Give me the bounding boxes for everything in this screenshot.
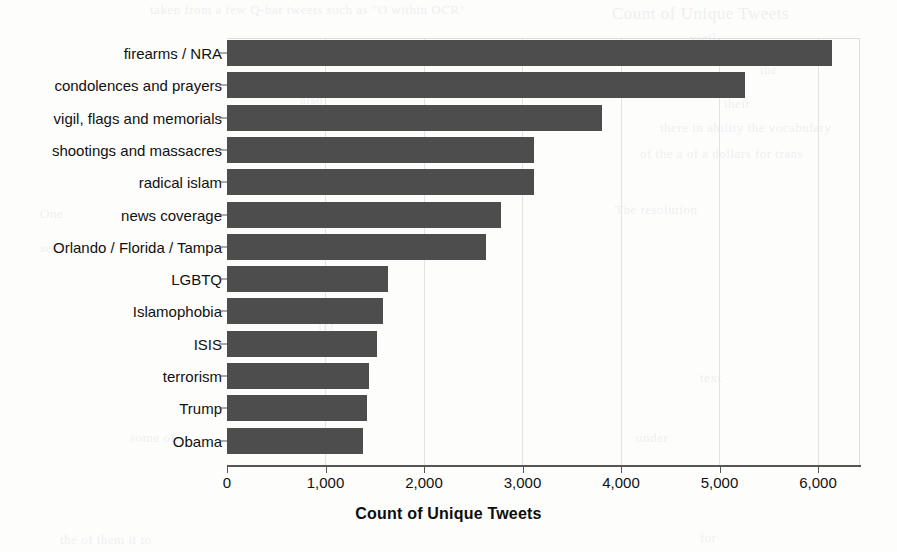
category-label: terrorism [163,368,222,385]
bar[interactable] [227,266,388,292]
scan-artifact-text: for [700,530,717,546]
category-label: vigil, flags and memorials [54,109,222,126]
bar-row[interactable]: news coverage [0,202,897,228]
bar-row[interactable]: Trump [0,395,897,421]
category-tick [219,408,227,409]
category-tick [219,246,227,247]
category-label: Obama [173,432,222,449]
bar-row[interactable]: Obama [0,428,897,454]
bar[interactable] [227,363,369,389]
category-tick [219,311,227,312]
x-tick-label: 0 [223,474,231,491]
bar[interactable] [227,40,832,66]
bar[interactable] [227,395,367,421]
category-tick [219,85,227,86]
category-tick [219,214,227,215]
bar[interactable] [227,298,383,324]
category-label: LGBTQ [171,271,222,288]
bar[interactable] [227,331,377,357]
bar[interactable] [227,202,501,228]
bar-row[interactable]: shootings and massacres [0,137,897,163]
x-tick-label: 2,000 [405,474,443,491]
bar[interactable] [227,428,363,454]
bar-row[interactable]: ISIS [0,331,897,357]
bar[interactable] [227,72,745,98]
category-tick [219,117,227,118]
x-tick-label: 1,000 [307,474,345,491]
category-tick [219,440,227,441]
category-label: shootings and massacres [52,141,222,158]
x-tick [621,465,622,473]
category-label: firearms / NRA [124,45,222,62]
x-tick-label: 4,000 [602,474,640,491]
category-tick [219,182,227,183]
category-label: ISIS [194,335,222,352]
chart-figure: Count of Unique Tweetstaken from a few Q… [0,0,897,552]
bar-row[interactable]: vigil, flags and memorials [0,105,897,131]
x-tick [424,465,425,473]
x-tick-label: 3,000 [504,474,542,491]
scan-artifact-text: Count of Unique Tweets [612,4,789,24]
bar-row[interactable]: condolences and prayers [0,72,897,98]
scan-artifact-text: taken from a few Q-bar tweets such as "O… [150,2,465,18]
bar[interactable] [227,234,486,260]
bar-row[interactable]: radical islam [0,169,897,195]
x-axis-line [227,465,861,467]
category-tick [219,279,227,280]
bar-row[interactable]: Orlando / Florida / Tampa [0,234,897,260]
category-label: radical islam [139,174,222,191]
x-tick [720,465,721,473]
x-tick [818,465,819,473]
scan-artifact-text: the of them it to [60,532,152,548]
bar[interactable] [227,105,602,131]
bar-row[interactable]: LGBTQ [0,266,897,292]
bar-row[interactable]: Islamophobia [0,298,897,324]
bar-row[interactable]: firearms / NRA [0,40,897,66]
x-tick-label: 5,000 [701,474,739,491]
category-label: Orlando / Florida / Tampa [53,238,222,255]
bar-row[interactable]: terrorism [0,363,897,389]
bar[interactable] [227,169,534,195]
bar[interactable] [227,137,534,163]
category-label: Islamophobia [133,303,222,320]
x-tick [227,465,228,473]
category-label: news coverage [121,206,222,223]
x-tick [326,465,327,473]
category-label: condolences and prayers [54,77,222,94]
category-label: Trump [179,400,222,417]
x-tick [523,465,524,473]
x-axis-title: Count of Unique Tweets [0,505,897,523]
category-tick [219,376,227,377]
category-tick [219,149,227,150]
x-tick-label: 6,000 [799,474,837,491]
category-tick [219,343,227,344]
category-tick [219,53,227,54]
